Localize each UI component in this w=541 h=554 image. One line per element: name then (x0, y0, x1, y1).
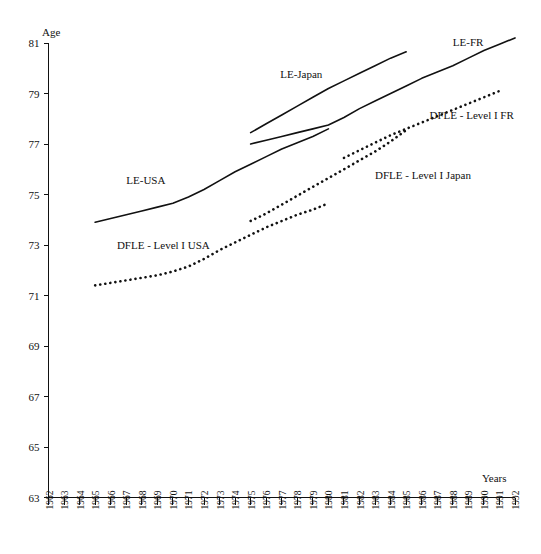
x-tick-label: 1974 (231, 490, 241, 509)
x-tick-label: 1977 (278, 490, 288, 509)
y-tick-label: 77 (29, 138, 41, 150)
y-axis-ticks: 63656769717375777981 (29, 37, 49, 504)
x-tick-label: 1980 (324, 490, 334, 509)
x-tick-label: 1969 (153, 490, 163, 509)
x-tick-label: 1964 (76, 490, 86, 509)
series-labels: LE-USADFLE - Level I USALE-JapanLE-FRDFL… (117, 36, 515, 251)
x-axis-title: Years (482, 472, 507, 484)
y-tick-label: 81 (29, 37, 40, 49)
y-tick-label: 67 (29, 391, 41, 403)
y-tick-label: 75 (29, 189, 41, 201)
x-tick-label: 1972 (200, 490, 210, 509)
x-tick-label: 1991 (495, 490, 505, 509)
x-tick-label: 1992 (511, 490, 521, 509)
x-tick-label: 1990 (480, 490, 490, 509)
y-tick-label: 65 (29, 441, 41, 453)
x-tick-label: 1976 (262, 490, 272, 509)
x-tick-label: 1970 (169, 490, 179, 509)
x-tick-label: 1973 (216, 490, 226, 509)
series-label-dfle-level-i-japan: DFLE - Level I Japan (375, 169, 471, 181)
x-tick-label: 1978 (293, 490, 303, 509)
x-tick-label: 1983 (371, 490, 381, 509)
series-label-le-japan: LE-Japan (280, 68, 323, 80)
series-label-dfle-level-i-fr: DFLE - Level I FR (430, 109, 515, 121)
x-tick-label: 1965 (91, 490, 101, 509)
line-chart-svg: 63656769717375777981 1962196319641965196… (0, 0, 541, 554)
x-tick-label: 1982 (356, 490, 366, 509)
series-label-le-usa: LE-USA (126, 174, 165, 186)
series-label-dfle-level-i-usa: DFLE - Level I USA (117, 239, 210, 251)
y-tick-label: 63 (29, 492, 41, 504)
series-line-dfle-level-i-fr (344, 91, 500, 158)
chart-container: 63656769717375777981 1962196319641965196… (0, 0, 541, 554)
y-axis-title: Age (42, 26, 60, 38)
series-line-le-fr (251, 38, 515, 144)
y-tick-label: 71 (29, 290, 40, 302)
x-tick-label: 1968 (138, 490, 148, 509)
x-tick-label: 1963 (60, 490, 70, 509)
x-tick-label: 1966 (107, 490, 117, 509)
x-tick-label: 1984 (387, 490, 397, 509)
x-tick-label: 1962 (45, 490, 55, 509)
x-tick-label: 1981 (340, 490, 350, 509)
series-line-le-japan (251, 52, 407, 133)
x-tick-label: 1988 (449, 490, 459, 509)
x-tick-label: 1975 (247, 490, 257, 509)
x-tick-label: 1987 (433, 490, 443, 509)
x-axis-ticks: 1962196319641965196619671968196919701971… (45, 490, 522, 509)
x-tick-label: 1971 (184, 490, 194, 509)
x-tick-label: 1986 (418, 490, 428, 509)
x-tick-label: 1967 (122, 490, 132, 509)
y-tick-label: 79 (29, 88, 41, 100)
y-tick-label: 73 (29, 239, 41, 251)
y-tick-label: 69 (29, 340, 41, 352)
x-tick-label: 1985 (402, 490, 412, 509)
series-label-le-fr: LE-FR (453, 36, 484, 48)
x-tick-label: 1989 (464, 490, 474, 509)
x-tick-label: 1979 (309, 490, 319, 509)
